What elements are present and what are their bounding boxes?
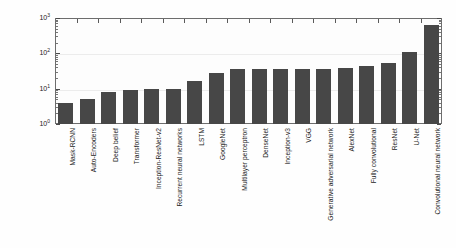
y-tick-label-10: 101 <box>28 85 50 92</box>
bar-15 <box>381 63 396 124</box>
x-label-2: Deep belief <box>112 128 120 162</box>
bar-17 <box>424 25 439 124</box>
x-label-13: AlexNet <box>348 128 356 151</box>
x-label-8: Multilayer perceptron <box>241 128 249 191</box>
y-tick-label-1: 100 <box>28 120 50 127</box>
x-axis-category-labels: Mask-RCNNAuto-EncodersDeep beliefTransfo… <box>55 126 442 244</box>
bar-10 <box>273 69 288 124</box>
x-label-4: Inception-ResNet-v2 <box>155 128 163 189</box>
x-label-10: Inception-v3 <box>284 128 292 165</box>
bar-13 <box>338 68 353 124</box>
x-label-15: ResNet <box>391 128 399 150</box>
x-label-9: DenseNet <box>262 128 270 158</box>
y-tick-label-1000: 103 <box>28 14 50 21</box>
bar-series <box>55 18 442 124</box>
x-label-0: Mask-RCNN <box>69 128 77 165</box>
bar-6 <box>187 81 202 124</box>
y-tick-label-100: 102 <box>28 49 50 56</box>
bar-2 <box>101 92 116 124</box>
bar-14 <box>359 66 374 124</box>
x-label-11: VGG <box>305 128 313 143</box>
bar-chart-figure: Number of Entries 103102101100 Mask-RCNN… <box>0 0 456 248</box>
x-label-17: Convolutional neural network <box>434 128 442 214</box>
x-label-16: U-Net <box>413 128 421 145</box>
x-label-12: Generative adversarial network <box>327 128 335 221</box>
x-label-1: Auto-Encoders <box>90 128 98 172</box>
x-label-6: LSTM <box>198 128 206 146</box>
bar-12 <box>316 69 331 124</box>
x-label-14: Fully convolutional <box>370 128 378 183</box>
bar-5 <box>166 89 181 124</box>
bar-9 <box>252 69 267 124</box>
x-label-7: GoogleNet <box>219 128 227 160</box>
bar-4 <box>144 89 159 124</box>
bar-1 <box>80 99 95 124</box>
x-label-3: Transformer <box>133 128 141 164</box>
bar-11 <box>295 69 310 124</box>
bar-16 <box>402 52 417 124</box>
x-label-5: Recurrent neural networks <box>176 128 184 207</box>
bar-3 <box>123 90 138 124</box>
y-major-tick-right-1 <box>437 124 441 125</box>
y-major-tick-1 <box>56 124 60 125</box>
bar-8 <box>230 69 245 124</box>
bar-7 <box>209 73 224 124</box>
bar-0 <box>58 103 73 124</box>
